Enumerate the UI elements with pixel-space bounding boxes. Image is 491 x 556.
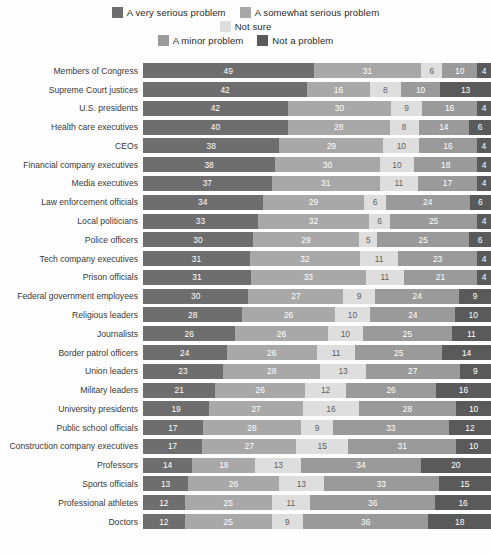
stacked-bar: 2826102410 (143, 307, 491, 322)
chart-row: Doctors122593618 (0, 513, 491, 531)
bar-segment: 29 (279, 138, 383, 153)
bar-segment: 11 (272, 495, 310, 510)
bar-segment: 40 (143, 120, 288, 135)
bar-segment: 42 (143, 101, 288, 116)
bar-segment: 30 (143, 232, 253, 247)
bar-segment: 16 (307, 82, 370, 97)
bar-segment: 14 (143, 458, 192, 473)
bar-segment: 36 (310, 495, 435, 510)
stacked-bar: 30295256 (143, 232, 491, 247)
category-label: Sports officials (0, 479, 143, 489)
bar-segment: 28 (359, 401, 456, 416)
legend-item-minor[interactable]: A minor problem (158, 35, 244, 46)
bar-segment: 6 (364, 195, 385, 210)
bar-segment: 4 (477, 251, 491, 266)
category-label: Media executives (0, 178, 143, 188)
bar-segment: 4 (477, 63, 491, 78)
category-label: Prison officials (0, 272, 143, 282)
bar-segment: 9 (391, 101, 422, 116)
bar-segment: 13 (440, 82, 491, 97)
category-label: Members of Congress (0, 66, 143, 76)
bar-segment: 17 (143, 420, 203, 435)
category-label: Professors (0, 460, 143, 470)
legend-item-not_a_problem[interactable]: Not a problem (257, 35, 333, 46)
bar-segment: 10 (380, 157, 415, 172)
chart-row: Local politicians33326254 (0, 212, 491, 230)
bar-segment: 10 (442, 63, 477, 78)
category-label: U.S. presidents (0, 103, 143, 113)
bar-segment: 11 (380, 176, 418, 191)
bar-segment: 25 (355, 345, 442, 360)
bar-segment: 16 (435, 495, 491, 510)
category-label: Law enforcement officials (0, 197, 143, 207)
category-label: Professional athletes (0, 498, 143, 508)
bar-segment: 26 (188, 476, 278, 491)
bar-segment: 4 (477, 157, 491, 172)
bar-segment: 17 (143, 439, 202, 454)
chart-row: Supreme Court justices421681013 (0, 81, 491, 99)
bar-segment: 11 (317, 345, 355, 360)
legend-label: A somewhat serious problem (255, 7, 380, 18)
bar-segment: 25 (185, 495, 272, 510)
legend-label: Not a problem (272, 35, 333, 46)
chart-row: Prison officials313311214 (0, 269, 491, 287)
bar-segment: 15 (296, 439, 348, 454)
stacked-bar-chart: A very serious problemA somewhat serious… (0, 0, 491, 556)
bar-segment: 34 (143, 195, 263, 210)
bar-segment: 6 (470, 195, 491, 210)
bar-segment: 18 (428, 514, 491, 529)
bar-segment: 4 (477, 270, 491, 285)
bar-segment: 42 (143, 82, 307, 97)
stacked-bar: 30279249 (143, 289, 491, 304)
bar-segment: 33 (324, 476, 439, 491)
category-label: University presidents (0, 404, 143, 414)
bar-segment: 31 (143, 251, 250, 266)
category-label: Border patrol officers (0, 348, 143, 358)
bar-segment: 16 (303, 401, 359, 416)
category-label: CEOs (0, 141, 143, 151)
bar-segment: 30 (288, 101, 391, 116)
chart-row: Sports officials1326133315 (0, 475, 491, 493)
bar-segment: 18 (192, 458, 255, 473)
bar-segment: 26 (227, 345, 317, 360)
legend-row: Not sure (220, 21, 272, 32)
bar-segment: 6 (469, 232, 491, 247)
chart-row: Media executives373111174 (0, 175, 491, 193)
bar-segment: 10 (455, 307, 491, 322)
bar-segment: 24 (370, 307, 455, 322)
bar-segment: 6 (369, 214, 390, 229)
bar-segment: 4 (477, 101, 491, 116)
bar-segment: 31 (272, 176, 380, 191)
bar-segment: 17 (418, 176, 477, 191)
bar-segment: 10 (328, 326, 364, 341)
bar-segment: 16 (436, 383, 491, 398)
bar-segment: 15 (439, 476, 491, 491)
stacked-bar: 313311214 (143, 270, 491, 285)
stacked-bar: 1418133420 (143, 458, 491, 473)
bar-segment: 30 (143, 289, 248, 304)
chart-row: Border patrol officers2426112514 (0, 344, 491, 362)
bar-segment: 16 (422, 101, 477, 116)
stacked-bar: 34296246 (143, 195, 491, 210)
category-label: Police officers (0, 235, 143, 245)
bar-segment: 4 (477, 214, 491, 229)
stacked-bar: 313211234 (143, 251, 491, 266)
bar-segment: 27 (248, 289, 343, 304)
bar-segment: 24 (375, 289, 459, 304)
legend-row: A very serious problemA somewhat serious… (112, 7, 379, 18)
bar-segment: 25 (185, 514, 272, 529)
legend-item-somewhat_serious[interactable]: A somewhat serious problem (240, 7, 380, 18)
legend-item-very_serious[interactable]: A very serious problem (112, 7, 226, 18)
bar-segment: 6 (469, 120, 491, 135)
category-label: Tech company executives (0, 254, 143, 264)
chart-row: Members of Congress49316104 (0, 62, 491, 80)
bar-segment: 4 (477, 138, 491, 153)
bar-segment: 21 (143, 383, 215, 398)
bar-segment: 30 (275, 157, 379, 172)
chart-row: U.S. presidents42309164 (0, 100, 491, 118)
category-label: Federal government employees (0, 291, 143, 301)
legend-label: Not sure (235, 21, 272, 32)
category-label: Construction company executives (0, 441, 143, 451)
bar-segment: 13 (320, 364, 365, 379)
legend-item-not_sure[interactable]: Not sure (220, 21, 272, 32)
